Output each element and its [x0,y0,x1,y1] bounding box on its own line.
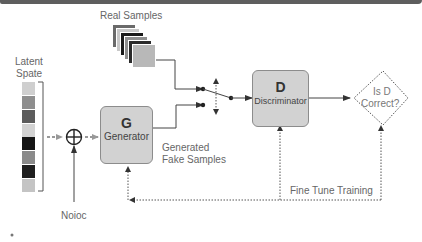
connector-lines [0,0,422,242]
decision-line1: Is D [373,86,391,98]
discriminator-box: D Discriminator [252,70,309,127]
generator-name: Generator [101,131,152,143]
generator-box: G Generator [100,106,153,164]
generated-label-line2: Fake Samples [162,154,226,166]
generator-letter: G [101,116,152,131]
discriminator-name: Discriminator [253,95,308,107]
decision-line2: Correct? [361,98,399,110]
noise-label: Noioc [61,210,87,222]
generated-label-line1: Generated [162,142,209,154]
fine-tune-label: Fine Tune Training [290,185,373,197]
discriminator-letter: D [253,80,308,95]
